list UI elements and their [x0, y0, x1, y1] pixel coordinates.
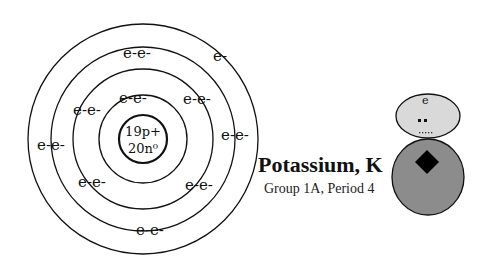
- electron-label: e-e-: [119, 89, 147, 107]
- figure-eye: [424, 119, 427, 122]
- electron-figure-icon: e: [392, 94, 464, 215]
- electron-label: e-e-: [136, 221, 164, 239]
- figure-eye: [418, 119, 421, 122]
- element-group-period: Group 1A, Period 4: [264, 181, 374, 197]
- bohr-model-diagram: 19p+ 20n⁰ e-e- e-e- e-e- e-e- e-e- e-e- …: [0, 0, 485, 266]
- electron-label: e-e-: [78, 173, 106, 191]
- electron-label: e-e-: [185, 176, 213, 194]
- nucleus-protons: 19p+: [125, 124, 161, 139]
- element-title: Potassium, K: [258, 152, 383, 178]
- nucleus-neutrons: 20n⁰: [128, 141, 158, 156]
- figure-body: [392, 139, 464, 215]
- electron-label: e-: [213, 47, 227, 65]
- electron-label: e-e-: [123, 44, 151, 62]
- figure-head-label: e: [422, 94, 429, 107]
- electron-label: e-e-: [37, 136, 65, 154]
- electron-label: e-e-: [221, 126, 249, 144]
- electron-label: e-e-: [73, 101, 101, 119]
- electron-label: e-e-: [183, 90, 211, 108]
